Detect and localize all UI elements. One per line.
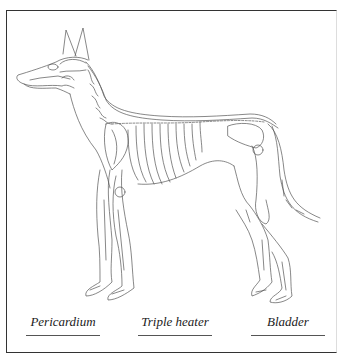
underline-pericardium xyxy=(26,335,100,336)
dog-skeleton-drawing xyxy=(0,0,340,359)
underline-bladder xyxy=(251,335,325,336)
label-bladder: Bladder xyxy=(251,314,325,330)
label-triple-heater: Triple heater xyxy=(138,314,212,330)
underline-triple-heater xyxy=(138,335,212,336)
label-pericardium: Pericardium xyxy=(26,314,100,330)
